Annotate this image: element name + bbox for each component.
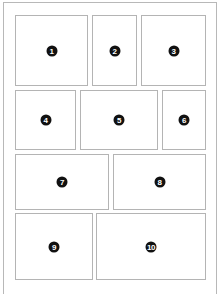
panel-4: 4 (15, 90, 76, 150)
panel-9: 9 (15, 213, 93, 280)
panel-number-badge: 2 (109, 45, 120, 56)
panel-number-badge: 9 (49, 241, 60, 252)
panel-number-badge: 8 (154, 177, 165, 188)
panel-number-badge: 10 (146, 241, 157, 252)
panel-number-badge: 5 (114, 115, 125, 126)
panel-3: 3 (141, 15, 206, 86)
panel-7: 7 (15, 154, 109, 210)
panel-1: 1 (15, 15, 88, 86)
panel-number-badge: 7 (57, 177, 68, 188)
panel-5: 5 (80, 90, 158, 150)
panel-2: 2 (92, 15, 137, 86)
panel-10: 10 (96, 213, 206, 280)
panel-number-badge: 3 (168, 45, 179, 56)
panel-number-badge: 6 (179, 115, 190, 126)
panel-number-badge: 4 (40, 115, 51, 126)
panel-6: 6 (162, 90, 206, 150)
panel-8: 8 (113, 154, 206, 210)
panel-number-badge: 1 (46, 45, 57, 56)
